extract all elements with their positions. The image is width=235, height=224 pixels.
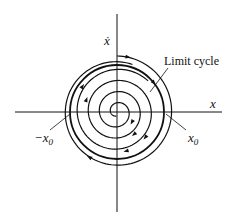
neg-x0-subscript: 0 — [49, 137, 54, 147]
direction-arrows — [79, 55, 155, 161]
inner-arrow-6 — [123, 148, 129, 152]
pos-x0-label: x0 — [187, 130, 199, 147]
outer-arrow-bottom — [87, 156, 93, 160]
x-axis-label: x — [209, 96, 216, 111]
neg-x0-label: −x0 — [34, 130, 54, 147]
pos-x0-subscript: 0 — [194, 137, 199, 147]
neg-x0-text: −x — [34, 130, 49, 145]
inner-arrow-3 — [131, 119, 135, 125]
limit-cycle-leader — [150, 68, 168, 92]
inner-spiral-trajectory — [77, 69, 151, 149]
phase-portrait: ẋ x Limit cycle −x0 x0 — [0, 0, 235, 224]
y-axis-label: ẋ — [103, 33, 110, 48]
inner-arrow-4 — [84, 97, 88, 103]
limit-cycle-label: Limit cycle — [164, 54, 219, 68]
trajectories — [65, 56, 171, 165]
